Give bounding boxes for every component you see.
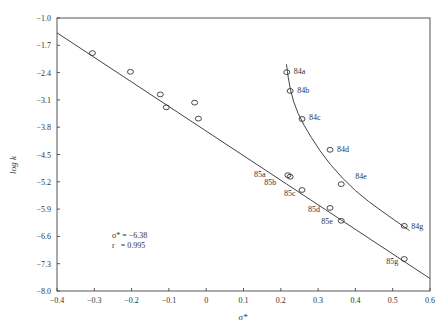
point-label: 84d [337,145,349,154]
y-axis-ticks: −1.0−1.7−2.4−3.1−3.8−4.5−5.2−5.9−6.6−7.3… [36,14,60,296]
data-point [338,182,344,187]
y-tick-label: −4.5 [36,151,51,160]
data-point [401,257,407,262]
data-point [299,188,305,193]
y-tick-label: −1.0 [36,14,51,23]
point-label: 84c [309,113,321,122]
point-label: 84g [411,222,423,231]
point-labels: 85a85b85c85d85e85g84a84b84c84d84e84g [254,67,423,266]
point-label: 84b [297,86,309,95]
x-axis-label: σ* [239,312,248,322]
point-label: 85g [386,257,398,266]
x-tick-label: 0 [204,296,208,305]
x-tick-label: 0.3 [313,296,323,305]
data-points [89,51,407,262]
x-tick-label: −0.1 [162,296,177,305]
y-axis-label: log k [8,155,18,174]
y-tick-label: −5.9 [36,205,51,214]
plot-frame [57,18,430,291]
data-point [127,69,133,74]
x-tick-label: 0.2 [276,296,286,305]
point-label: 85d [308,205,320,214]
data-point [192,100,198,105]
data-point [338,218,344,223]
x-tick-label: 0.5 [388,296,398,305]
y-tick-label: −7.3 [36,260,51,269]
y-tick-label: −1.7 [36,41,51,50]
y-tick-label: −3.1 [36,96,51,105]
y-tick-label: −5.2 [36,178,51,187]
data-point [89,51,95,56]
annotation-slope: σ* = −6.38 [112,231,147,240]
y-tick-label: −6.6 [36,232,51,241]
point-label: 85b [264,178,276,187]
point-label: 84a [294,67,306,76]
point-label: 84e [355,172,367,181]
annotation-r: r = 0.995 [112,241,145,250]
data-point [163,105,169,110]
x-tick-label: −0.2 [124,296,139,305]
data-point [284,70,290,75]
y-tick-label: −8.0 [36,287,51,296]
x-tick-label: 0.1 [239,296,249,305]
data-point [327,147,333,152]
x-tick-label: 0.4 [350,296,360,305]
point-label: 85e [321,217,333,226]
chart: −0.4−0.3−0.2−0.100.10.20.30.40.50.6 −1.0… [0,0,445,329]
y-tick-label: −2.4 [36,69,51,78]
data-point [195,116,201,121]
point-label: 85c [284,189,296,198]
y-tick-label: −3.8 [36,123,51,132]
data-point [157,92,163,97]
x-tick-label: 0.6 [425,296,435,305]
x-tick-label: −0.3 [87,296,102,305]
data-point [327,206,333,211]
x-tick-label: −0.4 [50,296,65,305]
